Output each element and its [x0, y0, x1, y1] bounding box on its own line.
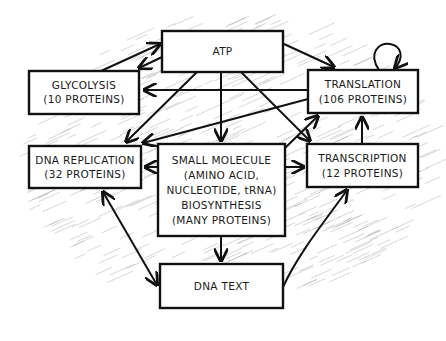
hatch-stroke [251, 243, 274, 253]
hatch-stroke [106, 189, 126, 198]
hatch-stroke [337, 255, 353, 262]
node-dna-replication[interactable]: DNA REPLICATION (32 PROTEINS) [29, 146, 141, 188]
node-dna-replication-label-1: DNA REPLICATION [35, 154, 135, 166]
nodes-layer: ATP GLYCOLYSIS (10 PROTEINS) TRANSLATION… [29, 31, 418, 308]
hatch-stroke [29, 205, 40, 210]
hatch-stroke [67, 118, 84, 126]
hatch-stroke [299, 265, 314, 272]
hatch-stroke [98, 255, 117, 264]
hatch-stroke [331, 38, 348, 46]
hatch-stroke [180, 115, 193, 121]
hatch-stroke [226, 252, 241, 259]
edge-atp-to-translation [284, 44, 334, 67]
hatch-stroke [426, 159, 446, 169]
hatch-stroke [233, 126, 242, 130]
hatch-stroke [150, 119, 170, 128]
hatch-stroke [87, 245, 101, 251]
hatch-stroke [358, 217, 388, 230]
hatch-stroke [239, 95, 267, 108]
hatch-stroke [260, 102, 270, 106]
hatch-stroke [42, 201, 66, 212]
hatch-stroke [138, 51, 156, 59]
hatch-stroke [330, 127, 355, 138]
node-small-molecule-label-5: (MANY PROTEINS) [172, 214, 271, 226]
hatch-stroke [319, 199, 337, 207]
hatch-stroke [314, 44, 325, 49]
hatch-stroke [273, 243, 293, 252]
hatch-stroke [412, 195, 441, 208]
hatch-stroke [409, 136, 417, 140]
node-small-molecule-label-2: (AMINO ACID, [184, 169, 259, 181]
hatch-stroke [103, 248, 121, 256]
hatch-stroke [242, 122, 266, 133]
hatch-stroke [309, 23, 335, 35]
hatch-stroke [425, 177, 440, 184]
hatch-stroke [181, 238, 196, 245]
hatch-stroke [354, 58, 371, 66]
hatch-stroke [102, 226, 117, 233]
hatch-stroke [291, 242, 304, 248]
node-translation-label-2: (106 PROTEINS) [319, 93, 407, 105]
hatch-stroke [286, 212, 305, 221]
hatch-stroke [46, 133, 70, 144]
hatch-stroke [363, 220, 379, 227]
hatch-stroke [155, 102, 180, 113]
node-glycolysis-label-1: GLYCOLYSIS [52, 79, 116, 91]
edge-dna-text-to-transcription [283, 190, 347, 287]
hatch-stroke [295, 195, 320, 206]
hatch-stroke [173, 16, 193, 25]
node-small-molecule[interactable]: SMALL MOLECULE (AMINO ACID, NUCLEOTIDE, … [158, 144, 285, 236]
hatch-stroke [223, 248, 242, 257]
hatch-stroke [421, 149, 440, 158]
hatch-stroke [343, 45, 368, 56]
hatch-stroke [263, 74, 285, 84]
hatch-stroke [318, 244, 338, 253]
hatch-stroke [138, 201, 159, 210]
hatch-stroke [298, 56, 322, 67]
hatch-stroke [70, 232, 87, 240]
hatch-stroke [20, 153, 28, 157]
hatch-stroke [67, 134, 76, 138]
node-transcription-label-2: (12 PROTEINS) [322, 167, 403, 179]
hatch-stroke [344, 200, 355, 205]
hatch-stroke [280, 73, 305, 84]
hatch-stroke [55, 224, 76, 233]
hatch-stroke [383, 194, 396, 200]
hatch-stroke [100, 50, 110, 55]
hatch-stroke [75, 254, 85, 259]
hatch-stroke [130, 195, 155, 206]
hatch-stroke [90, 122, 102, 127]
node-atp[interactable]: ATP [162, 31, 283, 72]
hatch-stroke [299, 117, 328, 130]
hatch-stroke [39, 116, 57, 124]
hatch-stroke [319, 34, 333, 40]
hatch-stroke [110, 136, 121, 141]
hatch-stroke [396, 114, 413, 122]
hatch-stroke [271, 20, 282, 25]
node-translation[interactable]: TRANSLATION (106 PROTEINS) [308, 70, 418, 113]
hatch-stroke [196, 104, 223, 116]
node-glycolysis[interactable]: GLYCOLYSIS (10 PROTEINS) [29, 71, 139, 114]
hatch-stroke [145, 249, 165, 258]
hatch-stroke [51, 217, 72, 227]
hatch-stroke [269, 21, 289, 30]
edge-translation-to-translation [374, 44, 400, 70]
node-dna-text[interactable]: DNA TEXT [160, 264, 283, 308]
hatch-stroke [373, 125, 384, 130]
hatch-stroke [220, 94, 244, 105]
hatch-stroke [98, 206, 122, 217]
hatch-stroke [339, 227, 368, 240]
hatch-stroke [38, 194, 48, 199]
node-transcription[interactable]: TRANSCRIPTION (12 PROTEINS) [307, 144, 418, 187]
hatch-stroke [330, 222, 353, 232]
hatch-stroke [340, 60, 350, 65]
hatch-stroke [362, 255, 381, 264]
hatch-stroke [309, 256, 318, 260]
hatch-stroke [417, 125, 444, 137]
hatch-stroke [107, 271, 133, 283]
hatch-stroke [203, 243, 218, 250]
hatch-stroke [205, 80, 214, 84]
hatch-stroke [402, 125, 431, 138]
hatch-stroke [121, 45, 134, 51]
hatch-stroke [290, 112, 301, 117]
